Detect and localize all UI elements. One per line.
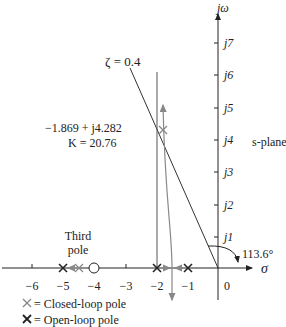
tick-j3: j3 [222,165,233,179]
point-label: −1.869 + j4.282 [45,121,122,135]
angle-label: 113.6° [242,247,274,261]
root-locus-svg: j1 j2 j3 j4 j5 j6 j7 jω s-plane σ −6 −5 … [0,0,286,327]
zero [89,263,99,273]
zeta-line [130,68,218,268]
tick-m6: −6 [26,279,39,293]
zeta-label: ζ = 0.4 [105,54,141,69]
tick-m5: −5 [57,279,70,293]
angle-arc [208,246,238,262]
legend: = Closed-loop pole = Open-loop pole [23,297,126,327]
tick-m3: −3 [120,279,133,293]
root-locus-diagram: j1 j2 j3 j4 j5 j6 j7 jω s-plane σ −6 −5 … [0,0,286,327]
tick-m4: −4 [88,279,101,293]
gain-label: K = 20.76 [68,136,116,150]
real-axis-label: σ [261,261,269,276]
imag-ticks [214,43,218,237]
tick-m2: −2 [151,279,164,293]
s-plane-label: s-plane [252,135,286,149]
tick-j2: j2 [222,198,233,212]
tick-j5: j5 [222,101,233,115]
closed-loop-pole-point [159,126,167,134]
tick-j6: j6 [222,68,233,82]
third-pole-label-1: Third [65,229,92,243]
tick-m1: −1 [182,279,195,293]
tick-j7: j7 [222,36,234,50]
legend-open-loop: = Open-loop pole [34,313,119,327]
imag-axis-label: jω [215,1,229,15]
third-pole-label-2: pole [68,243,89,257]
tick-0: 0 [224,279,230,293]
legend-closed-loop: = Closed-loop pole [34,297,126,311]
tick-j4: j4 [222,133,233,147]
tick-j1: j1 [222,230,233,244]
